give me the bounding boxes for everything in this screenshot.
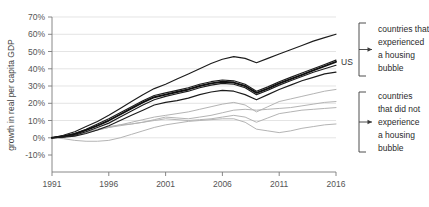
y-axis-title: growth in real per capita GDP [6, 39, 16, 151]
y-tick-label-neg10: -10% [25, 150, 45, 160]
bracket-top-arrow-head [368, 47, 373, 51]
line-chart: 70% 60% 50% 40% 30% 20% 10% 0% -10% 1991… [0, 0, 429, 207]
bubble-annotation-line-2: experienced [378, 37, 425, 47]
x-tick-label-1996: 1996 [99, 179, 118, 189]
bubble-group-bracket [359, 23, 372, 76]
nonbubble-group-annotation: countries that did not experience a hous… [378, 91, 421, 153]
us-line-label: US [341, 57, 353, 67]
bracket-bottom-arrow-head [368, 120, 373, 124]
y-tick-label-70: 70% [28, 12, 45, 22]
y-tick-label-40: 40% [28, 64, 45, 74]
bubble-annotation-line-4: bubble [378, 63, 404, 73]
x-tick-label-2011: 2011 [270, 179, 289, 189]
y-axis: 70% 60% 50% 40% 30% 20% 10% 0% -10% [25, 12, 52, 172]
bubble-annotation-line-1: countries that [378, 24, 429, 34]
series-layer [52, 34, 336, 141]
x-tick-label-2016: 2016 [327, 179, 346, 189]
x-tick-label-2006: 2006 [213, 179, 232, 189]
y-tick-label-50: 50% [28, 47, 45, 57]
y-tick-label-0: 0% [33, 133, 46, 143]
y-tick-label-10: 10% [28, 116, 45, 126]
series-line-bubble-country-3-us [52, 62, 336, 138]
nonbubble-group-bracket [359, 92, 372, 152]
nonbubble-annotation-line-4: a housing [378, 130, 415, 140]
nonbubble-annotation-line-2: that did not [378, 104, 421, 114]
y-tick-label-60: 60% [28, 29, 45, 39]
x-axis: 1991 1996 2001 2006 2011 2016 [43, 172, 346, 189]
y-tick-label-30: 30% [28, 81, 45, 91]
x-tick-label-2001: 2001 [156, 179, 175, 189]
nonbubble-annotation-line-3: experience [378, 117, 420, 127]
chart-container: 70% 60% 50% 40% 30% 20% 10% 0% -10% 1991… [0, 0, 429, 207]
x-tick-label-1991: 1991 [43, 179, 62, 189]
bubble-group-annotation: countries that experienced a housing bub… [378, 24, 429, 73]
nonbubble-annotation-line-1: countries [378, 91, 413, 101]
y-tick-label-20: 20% [28, 98, 45, 108]
bubble-annotation-line-3: a housing [378, 50, 415, 60]
nonbubble-annotation-line-5: bubble [378, 143, 404, 153]
